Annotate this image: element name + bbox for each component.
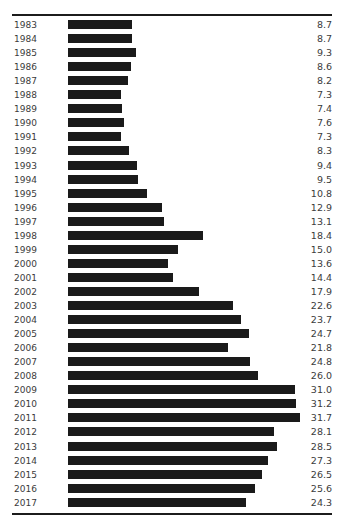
row-value-label: 8.6 bbox=[286, 60, 332, 74]
row-year-label: 2006 bbox=[14, 341, 60, 355]
bar-chart-plot: 19838.719848.719859.319868.619878.219887… bbox=[0, 18, 346, 510]
row-value-label: 12.9 bbox=[286, 201, 332, 215]
table-top-rule bbox=[12, 14, 332, 16]
table-row: 199713.1 bbox=[0, 215, 346, 229]
row-year-label: 1989 bbox=[14, 102, 60, 116]
row-year-label: 2000 bbox=[14, 257, 60, 271]
row-bar bbox=[68, 34, 132, 43]
row-year-label: 2014 bbox=[14, 454, 60, 468]
row-year-label: 1987 bbox=[14, 74, 60, 88]
row-value-label: 31.7 bbox=[286, 411, 332, 425]
row-value-label: 7.4 bbox=[286, 102, 332, 116]
row-value-label: 7.3 bbox=[286, 130, 332, 144]
row-year-label: 2016 bbox=[14, 482, 60, 496]
row-bar bbox=[68, 189, 147, 198]
row-bar bbox=[68, 231, 203, 240]
row-bar bbox=[68, 329, 249, 338]
row-value-label: 24.7 bbox=[286, 327, 332, 341]
row-value-label: 7.3 bbox=[286, 88, 332, 102]
row-bar bbox=[68, 399, 296, 408]
row-year-label: 1997 bbox=[14, 215, 60, 229]
table-row: 200013.6 bbox=[0, 257, 346, 271]
row-bar bbox=[68, 498, 246, 507]
row-bar bbox=[68, 259, 168, 268]
row-year-label: 1986 bbox=[14, 60, 60, 74]
table-row: 19859.3 bbox=[0, 46, 346, 60]
row-year-label: 2015 bbox=[14, 468, 60, 482]
row-bar bbox=[68, 470, 262, 479]
row-value-label: 23.7 bbox=[286, 313, 332, 327]
row-value-label: 13.6 bbox=[286, 257, 332, 271]
table-row: 19848.7 bbox=[0, 32, 346, 46]
table-row: 19897.4 bbox=[0, 102, 346, 116]
row-year-label: 2013 bbox=[14, 440, 60, 454]
table-row: 201328.5 bbox=[0, 440, 346, 454]
row-bar bbox=[68, 385, 295, 394]
row-bar bbox=[68, 20, 132, 29]
row-value-label: 17.9 bbox=[286, 285, 332, 299]
row-bar bbox=[68, 287, 199, 296]
table-row: 19868.6 bbox=[0, 60, 346, 74]
row-bar bbox=[68, 273, 173, 282]
row-year-label: 1995 bbox=[14, 187, 60, 201]
table-row: 200524.7 bbox=[0, 327, 346, 341]
row-year-label: 1998 bbox=[14, 229, 60, 243]
row-year-label: 1994 bbox=[14, 173, 60, 187]
row-bar bbox=[68, 427, 274, 436]
row-value-label: 28.5 bbox=[286, 440, 332, 454]
row-bar bbox=[68, 48, 136, 57]
table-row: 201031.2 bbox=[0, 397, 346, 411]
row-year-label: 1993 bbox=[14, 159, 60, 173]
row-value-label: 9.3 bbox=[286, 46, 332, 60]
row-year-label: 1992 bbox=[14, 144, 60, 158]
row-bar bbox=[68, 203, 162, 212]
table-row: 19917.3 bbox=[0, 130, 346, 144]
row-bar bbox=[68, 76, 128, 85]
row-bar bbox=[68, 146, 129, 155]
row-bar bbox=[68, 161, 137, 170]
table-row: 199612.9 bbox=[0, 201, 346, 215]
row-value-label: 9.5 bbox=[286, 173, 332, 187]
table-row: 19838.7 bbox=[0, 18, 346, 32]
row-year-label: 1984 bbox=[14, 32, 60, 46]
row-value-label: 24.8 bbox=[286, 355, 332, 369]
table-row: 201131.7 bbox=[0, 411, 346, 425]
row-bar bbox=[68, 132, 121, 141]
row-value-label: 27.3 bbox=[286, 454, 332, 468]
row-bar bbox=[68, 90, 121, 99]
row-value-label: 8.2 bbox=[286, 74, 332, 88]
row-bar bbox=[68, 357, 250, 366]
row-year-label: 1985 bbox=[14, 46, 60, 60]
row-year-label: 2010 bbox=[14, 397, 60, 411]
row-year-label: 1988 bbox=[14, 88, 60, 102]
table-row: 200114.4 bbox=[0, 271, 346, 285]
row-bar bbox=[68, 118, 124, 127]
row-value-label: 26.5 bbox=[286, 468, 332, 482]
row-bar bbox=[68, 245, 178, 254]
row-value-label: 7.6 bbox=[286, 116, 332, 130]
row-year-label: 1996 bbox=[14, 201, 60, 215]
row-value-label: 31.0 bbox=[286, 383, 332, 397]
table-row: 201427.3 bbox=[0, 454, 346, 468]
table-row: 19907.6 bbox=[0, 116, 346, 130]
row-value-label: 15.0 bbox=[286, 243, 332, 257]
table-row: 199818.4 bbox=[0, 229, 346, 243]
row-value-label: 13.1 bbox=[286, 215, 332, 229]
row-year-label: 2017 bbox=[14, 496, 60, 510]
table-row: 201625.6 bbox=[0, 482, 346, 496]
row-bar bbox=[68, 62, 131, 71]
row-value-label: 14.4 bbox=[286, 271, 332, 285]
row-value-label: 8.7 bbox=[286, 32, 332, 46]
table-row: 200322.6 bbox=[0, 299, 346, 313]
row-value-label: 8.3 bbox=[286, 144, 332, 158]
row-bar bbox=[68, 442, 277, 451]
row-value-label: 10.8 bbox=[286, 187, 332, 201]
row-year-label: 2004 bbox=[14, 313, 60, 327]
row-year-label: 2009 bbox=[14, 383, 60, 397]
row-value-label: 25.6 bbox=[286, 482, 332, 496]
table-row: 201724.3 bbox=[0, 496, 346, 510]
row-bar bbox=[68, 413, 300, 422]
row-value-label: 26.0 bbox=[286, 369, 332, 383]
row-year-label: 1990 bbox=[14, 116, 60, 130]
row-value-label: 8.7 bbox=[286, 18, 332, 32]
